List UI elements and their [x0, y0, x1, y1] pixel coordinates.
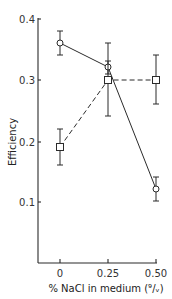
- y-tick-label-0.2: 0.2: [19, 137, 35, 148]
- x-tick-label-0.50: 0.50: [145, 268, 167, 279]
- efficiency-chart: 0.4 0.3 0.2 0.1 0 0.25 0.50 Efficiency %…: [0, 0, 172, 299]
- data-point-circle: [57, 40, 63, 46]
- series-squares: [57, 55, 160, 165]
- x-tick-label-0: 0: [57, 268, 63, 279]
- x-axis: [38, 259, 157, 263]
- data-point-square: [105, 77, 112, 84]
- y-tick-label-0.3: 0.3: [19, 75, 35, 86]
- x-tick-label-0.25: 0.25: [97, 268, 119, 279]
- y-tick-label-0.4: 0.4: [19, 14, 35, 25]
- y-axis-title: Efficiency: [7, 118, 18, 166]
- y-axis: [38, 18, 41, 263]
- data-point-square: [57, 144, 64, 151]
- data-point-square: [153, 77, 160, 84]
- y-tick-label-0.1: 0.1: [19, 197, 35, 208]
- data-point-circle: [153, 186, 159, 192]
- x-axis-title: % NaCl in medium (⁹/ᵥ): [48, 283, 163, 294]
